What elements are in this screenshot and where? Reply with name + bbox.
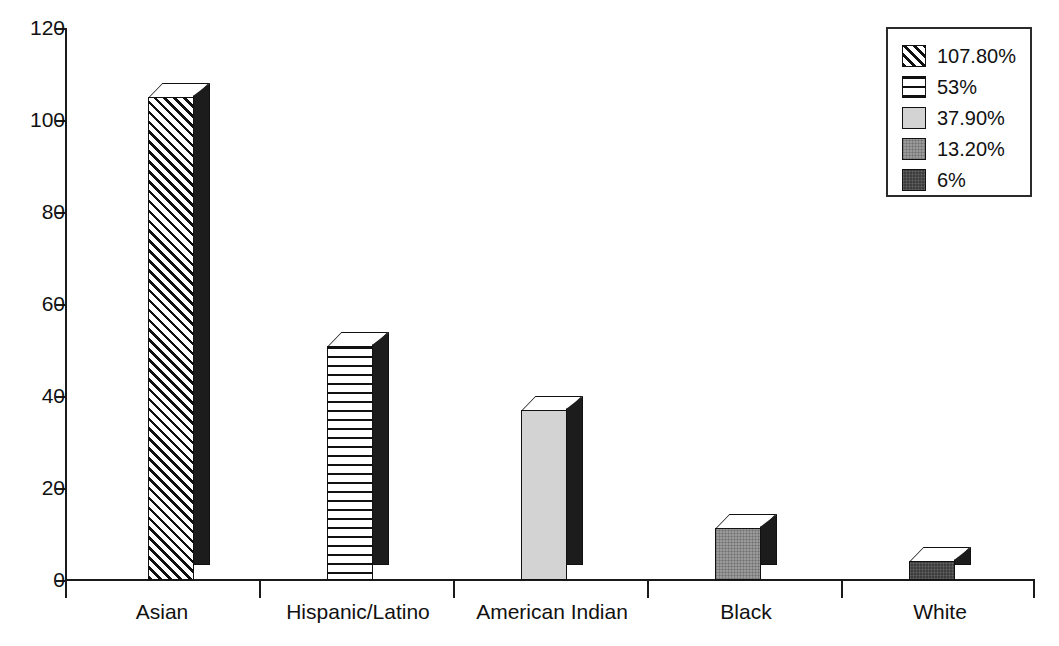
bar-front-face [909, 561, 955, 580]
legend-swatch-medium-gray-icon [902, 138, 926, 160]
bar-front-face [148, 97, 194, 580]
legend-swatch-horizontal-lines-icon [902, 76, 926, 98]
legend-item: 13.20% [902, 134, 1030, 164]
legend-label: 13.20% [937, 139, 1005, 159]
y-axis-line [65, 28, 67, 581]
y-axis-tick-label: 100 [19, 109, 65, 130]
bar-front-face [715, 528, 761, 580]
x-axis-category-label: White [840, 600, 1040, 623]
y-axis-tick-label: 0 [19, 569, 65, 590]
bar-american-indian [521, 396, 583, 580]
legend-item: 107.80% [902, 41, 1030, 71]
legend-label: 53% [937, 77, 977, 97]
bar-side-face [566, 396, 583, 565]
x-axis-category-label: Black [646, 600, 846, 623]
x-axis-category-label: Hispanic/Latino [258, 600, 458, 623]
y-axis-tick-label: 60 [19, 293, 65, 314]
y-axis-tick-label: 20 [19, 477, 65, 498]
x-axis-end-tick [1033, 581, 1035, 598]
legend-item: 37.90% [902, 103, 1030, 133]
y-axis-tick-label: 120 [19, 17, 65, 38]
chart-legend: 107.80% 53% 37.90% 13.20% 6% [886, 27, 1032, 197]
bar-chart: 120 100 80 60 40 20 0 [0, 0, 1059, 646]
bar-asian [148, 83, 210, 580]
bar-black [715, 514, 777, 580]
x-axis-category-label: American Indian [452, 600, 652, 623]
bar-white [909, 547, 971, 580]
x-axis-tick [453, 581, 455, 598]
legend-swatch-diagonal-hatch-icon [902, 45, 926, 67]
legend-swatch-dark-gray-icon [902, 169, 926, 191]
legend-item: 6% [902, 165, 1030, 195]
x-axis-tick [647, 581, 649, 598]
legend-item: 53% [902, 72, 1030, 102]
bar-side-face [193, 83, 210, 565]
legend-label: 107.80% [937, 46, 1016, 66]
legend-label: 37.90% [937, 108, 1005, 128]
bar-side-face [372, 332, 389, 565]
x-axis-tick [841, 581, 843, 598]
bar-front-face [521, 410, 567, 580]
bar-hispanic-latino [327, 332, 389, 580]
bar-front-face [327, 346, 373, 580]
y-axis-tick-label: 40 [19, 385, 65, 406]
x-axis-tick [259, 581, 261, 598]
x-axis-category-label: Asian [82, 600, 242, 623]
x-axis-tick [65, 581, 67, 598]
legend-label: 6% [937, 170, 966, 190]
y-axis-tick-label: 80 [19, 201, 65, 222]
legend-swatch-light-gray-icon [902, 107, 926, 129]
